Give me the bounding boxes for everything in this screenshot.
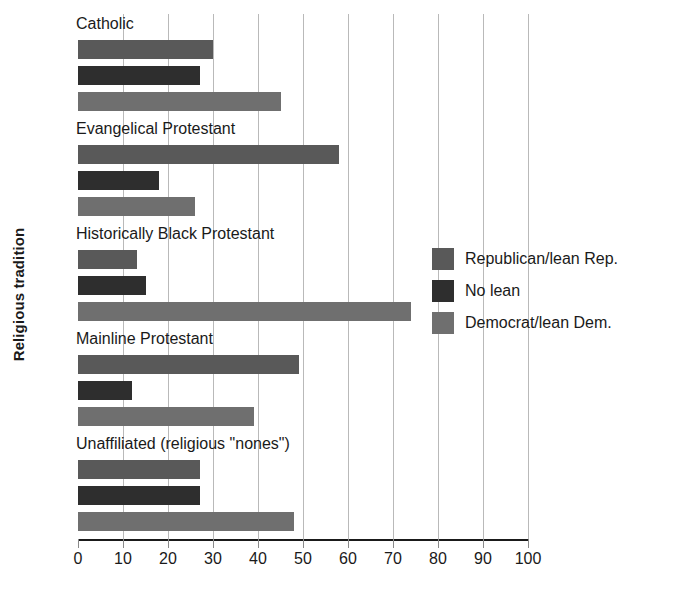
gridline-50 <box>303 14 304 539</box>
x-tick-40 <box>258 539 259 548</box>
x-tick-0 <box>78 539 79 548</box>
x-axis-tick-labels: 0102030405060708090100 <box>78 550 528 576</box>
bar <box>78 197 195 216</box>
bar <box>78 381 132 400</box>
x-tick-label-90: 90 <box>474 550 492 568</box>
bar <box>78 145 339 164</box>
category-label: Mainline Protestant <box>76 329 213 349</box>
x-tick-90 <box>483 539 484 548</box>
y-axis-title-text: Religious tradition <box>11 228 28 362</box>
x-tick-label-60: 60 <box>339 550 357 568</box>
bar <box>78 407 254 426</box>
bar <box>78 276 146 295</box>
category-label: Evangelical Protestant <box>76 119 235 139</box>
y-axis-title: Religious tradition <box>2 0 36 589</box>
x-tick-label-0: 0 <box>74 550 83 568</box>
x-tick-label-40: 40 <box>249 550 267 568</box>
legend-label: Democrat/lean Dem. <box>465 314 612 332</box>
x-tick-70 <box>393 539 394 548</box>
x-axis-ticks <box>78 539 528 548</box>
bar <box>78 40 213 59</box>
legend-label: Republican/lean Rep. <box>465 250 618 268</box>
x-tick-label-30: 30 <box>204 550 222 568</box>
bar <box>78 171 159 190</box>
x-tick-label-100: 100 <box>515 550 542 568</box>
bar <box>78 460 200 479</box>
bar <box>78 302 411 321</box>
bar <box>78 92 281 111</box>
x-tick-label-10: 10 <box>114 550 132 568</box>
x-tick-50 <box>303 539 304 548</box>
x-tick-30 <box>213 539 214 548</box>
category-label: Historically Black Protestant <box>76 224 274 244</box>
legend-item[interactable]: No lean <box>432 275 668 307</box>
gridline-70 <box>393 14 394 539</box>
legend-swatch-icon <box>432 280 454 302</box>
legend: Republican/lean Rep.No leanDemocrat/lean… <box>432 243 668 339</box>
x-tick-10 <box>123 539 124 548</box>
x-tick-label-70: 70 <box>384 550 402 568</box>
bar <box>78 66 200 85</box>
bar <box>78 486 200 505</box>
x-tick-label-80: 80 <box>429 550 447 568</box>
x-tick-80 <box>438 539 439 548</box>
bar <box>78 250 137 269</box>
category-label: Catholic <box>76 14 134 34</box>
legend-item[interactable]: Republican/lean Rep. <box>432 243 668 275</box>
x-tick-100 <box>528 539 529 548</box>
legend-swatch-icon <box>432 248 454 270</box>
bar <box>78 355 299 374</box>
legend-label: No lean <box>465 282 520 300</box>
bar-chart: Religious tradition CatholicEvangelical … <box>0 0 673 589</box>
x-tick-60 <box>348 539 349 548</box>
legend-item[interactable]: Democrat/lean Dem. <box>432 307 668 339</box>
gridline-60 <box>348 14 349 539</box>
x-tick-20 <box>168 539 169 548</box>
x-tick-label-50: 50 <box>294 550 312 568</box>
category-label: Unaffiliated (religious "nones") <box>76 434 290 454</box>
bar <box>78 512 294 531</box>
legend-swatch-icon <box>432 312 454 334</box>
x-tick-label-20: 20 <box>159 550 177 568</box>
